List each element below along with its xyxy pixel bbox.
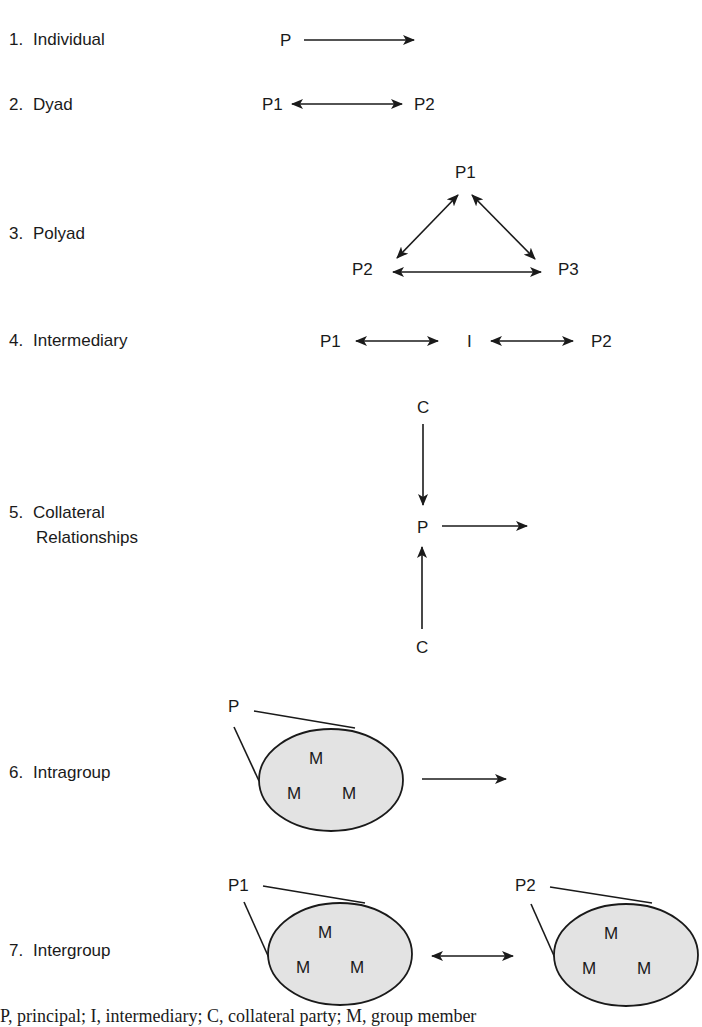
node-p2: P2	[352, 260, 373, 279]
node-p1: P1	[455, 163, 476, 182]
node-p: P	[280, 31, 291, 50]
principal-leader-line	[531, 904, 555, 958]
node-p: P	[228, 697, 239, 716]
node-p2: P2	[591, 332, 612, 351]
polyad-diagram: P1 P2 P3	[352, 163, 579, 279]
node-p2: P2	[414, 95, 435, 114]
principal-leader-line	[550, 887, 652, 903]
intergroup-diagram: P1 M M M P2 M M M	[228, 876, 698, 1006]
double-arrow-icon	[397, 195, 458, 258]
principal-leader-line	[254, 711, 355, 728]
collateral-diagram: C P C	[416, 398, 527, 657]
member-m: M	[318, 923, 332, 942]
member-m: M	[342, 784, 356, 803]
member-m: M	[637, 959, 651, 978]
member-m: M	[582, 959, 596, 978]
double-arrow-icon	[472, 195, 535, 259]
principal-leader-line	[234, 727, 259, 781]
intragroup-diagram: P M M M	[228, 697, 506, 831]
member-m: M	[287, 784, 301, 803]
group-ellipse-right	[554, 904, 698, 1006]
node-c-top: C	[417, 398, 429, 417]
node-p3: P3	[558, 260, 579, 279]
node-p2: P2	[515, 876, 536, 895]
member-m: M	[309, 749, 323, 768]
member-m: M	[604, 924, 618, 943]
node-p: P	[417, 518, 428, 537]
member-m: M	[350, 958, 364, 977]
member-m: M	[296, 958, 310, 977]
node-c-bottom: C	[416, 638, 428, 657]
group-ellipse	[259, 729, 403, 831]
node-p1: P1	[228, 876, 249, 895]
intermediary-diagram: P1 I P2	[320, 332, 612, 351]
principal-leader-line	[244, 902, 269, 958]
dyad-diagram: P1 P2	[262, 95, 435, 114]
node-i: I	[467, 332, 472, 351]
node-p1: P1	[320, 332, 341, 351]
figure-caption: P, principal; I, intermediary; C, collat…	[0, 1006, 476, 1027]
node-p1: P1	[262, 95, 283, 114]
principal-leader-line	[263, 886, 365, 903]
group-ellipse-left	[268, 903, 412, 1005]
individual-diagram: P	[280, 31, 414, 50]
